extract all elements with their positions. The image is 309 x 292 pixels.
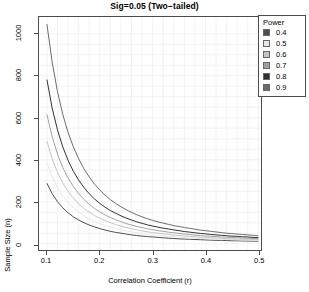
x-tick-label: 0.4 — [186, 256, 226, 265]
y-tick-text: 800 — [5, 69, 33, 82]
x-tick-mark — [206, 251, 207, 255]
legend-label: 0.4 — [276, 28, 286, 37]
legend-swatch — [263, 62, 270, 69]
plot-area — [38, 16, 262, 251]
legend-label: 0.9 — [276, 83, 286, 92]
y-tick-label: 400 — [5, 146, 33, 174]
x-tick-mark — [259, 251, 260, 255]
curve-power-0.6 — [47, 141, 258, 240]
x-tick-label: 0.3 — [133, 256, 173, 265]
y-tick-label: 600 — [5, 104, 33, 132]
y-tick-text: 1000 — [5, 25, 33, 42]
legend-entry-0.9: 0.9 — [263, 83, 305, 93]
y-tick-label: 1000 — [5, 19, 33, 47]
legend: Power 0.40.50.60.70.80.9 — [258, 15, 306, 97]
y-tick-mark — [34, 33, 38, 34]
y-tick-mark — [34, 202, 38, 203]
legend-entry-0.6: 0.6 — [263, 50, 305, 60]
y-tick-mark — [34, 160, 38, 161]
legend-label: 0.5 — [276, 39, 286, 48]
y-tick-mark — [34, 75, 38, 76]
x-tick-mark — [46, 251, 47, 255]
y-tick-mark — [34, 118, 38, 119]
legend-label: 0.6 — [276, 50, 286, 59]
x-tick-mark — [99, 251, 100, 255]
y-tick-text: 400 — [5, 154, 33, 167]
y-tick-text: 600 — [5, 111, 33, 124]
legend-swatch — [263, 51, 270, 58]
legend-swatch — [263, 40, 270, 47]
legend-entry-0.4: 0.4 — [263, 28, 305, 38]
legend-entry-0.5: 0.5 — [263, 39, 305, 49]
series-lines — [39, 17, 261, 250]
y-tick-label: 800 — [5, 61, 33, 89]
chart-root: Sig=0.05 (Two−tailed) 02004006008001000 … — [0, 0, 309, 292]
y-axis-label-wrap: Sample Size (n) — [8, 133, 9, 134]
y-tick-mark — [34, 245, 38, 246]
legend-entry-0.8: 0.8 — [263, 72, 305, 82]
legend-entry-0.7: 0.7 — [263, 61, 305, 71]
legend-swatch — [263, 84, 270, 91]
curve-power-0.5 — [47, 163, 258, 240]
legend-label: 0.7 — [276, 61, 286, 70]
x-axis-label: Correlation Coefficient (r) — [0, 276, 300, 285]
legend-label: 0.8 — [276, 72, 286, 81]
x-tick-label: 0.2 — [79, 256, 119, 265]
legend-title: Power — [263, 18, 284, 27]
legend-swatch — [263, 73, 270, 80]
x-tick-label: 0.1 — [26, 256, 66, 265]
chart-title: Sig=0.05 (Two−tailed) — [0, 1, 309, 11]
x-tick-mark — [153, 251, 154, 255]
legend-swatch — [263, 29, 270, 36]
x-tick-label: 0.5 — [239, 256, 279, 265]
